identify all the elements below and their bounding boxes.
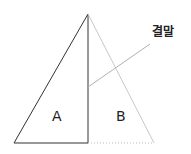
left-edge — [14, 14, 88, 143]
callout-label: 결말 — [152, 26, 174, 38]
callout-leader — [88, 44, 150, 87]
region-b-label: B — [116, 109, 126, 123]
region-a-label: A — [52, 109, 62, 123]
triangle-diagram — [0, 0, 191, 154]
